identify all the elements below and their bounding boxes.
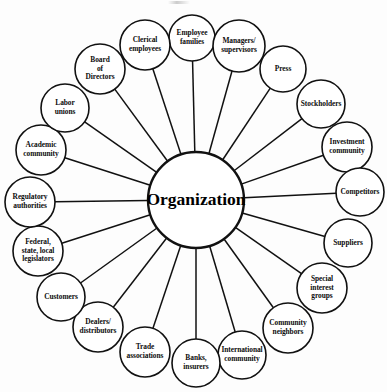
node-label-academic-community: community [23,149,59,158]
node-stockholders[interactable]: Stockholders [297,80,345,128]
node-special-interest-groups[interactable]: Specialinterestgroups [297,263,347,313]
node-label-employee-families: families [180,37,204,46]
spoke-line-clerical-employees [153,69,181,155]
node-labor-unions[interactable]: Laborunions [41,84,89,132]
node-trade-associations[interactable]: Tradeassociations [120,327,170,377]
node-managers-supervisors[interactable]: Managers/supervisors [213,20,265,72]
node-label-labor-unions: unions [55,107,76,116]
node-suppliers[interactable]: Suppliers [324,219,372,267]
spoke-line-suppliers [242,213,325,236]
spoke-line-federal-state-local-legislators [62,215,151,244]
node-label-dealers-distributors: distributors [80,326,117,335]
spoke-line-customers [80,228,157,283]
spoke-line-regulatory-authorities [55,201,148,202]
node-label-trade-associations: associations [127,351,164,360]
node-clerical-employees[interactable]: Clericalemployees [120,20,170,70]
spoke-line-competitors [244,193,336,197]
node-label-special-interest-groups: groups [311,291,333,300]
node-label-board-of-directors: Directors [86,72,115,81]
node-employee-families[interactable]: Employeefamilies [169,15,215,61]
diagram-canvas: EmployeefamiliesManagers/supervisorsPres… [0,0,387,392]
spoke-line-international-community [210,246,236,332]
node-label-community-neighbors: neighbors [273,327,304,336]
spoke-line-academic-community [65,158,151,186]
spoke-line-managers-supervisors [209,71,232,154]
node-board-of-directors[interactable]: BoardofDirectors [75,44,125,94]
spoke-line-labor-unions [85,122,157,173]
node-competitors[interactable]: Competitors [336,168,384,216]
node-label-stockholders: Stockholders [301,99,342,108]
spoke-line-investment-community [241,155,323,184]
node-label-banks-insurers: insurers [183,362,209,371]
node-banks-insurers[interactable]: Banks,insurers [172,339,220,387]
stakeholder-map-svg: EmployeefamiliesManagers/supervisorsPres… [0,0,387,392]
node-academic-community[interactable]: Academiccommunity [16,125,66,175]
node-federal-state-local-legislators[interactable]: Federal,state, locallegislators [13,226,63,276]
node-community-neighbors[interactable]: Communityneighbors [263,303,313,353]
spoke-line-dealers-distributors [113,238,166,307]
node-label-competitors: Competitors [341,187,380,196]
node-label-investment-community: community [329,146,365,155]
organization-hub-label: Organization [146,189,245,209]
node-label-customers: Customers [44,292,78,301]
node-label-clerical-employees: employees [129,44,161,53]
node-label-federal-state-local-legislators: legislators [22,254,54,263]
node-label-international-community: community [224,354,260,363]
node-label-press: Press [275,64,292,73]
node-label-regulatory-authorities: authorities [13,201,47,210]
spoke-line-special-interest-groups [235,227,301,273]
node-customers[interactable]: Customers [37,273,85,321]
hub-layer: Organization [146,152,245,248]
spoke-line-employee-families [193,61,195,152]
spoke-line-trade-associations [153,246,181,329]
spoke-line-board-of-directors [115,89,168,161]
node-investment-community[interactable]: Investmentcommunity [322,122,372,172]
node-international-community[interactable]: Internationalcommunity [218,331,266,379]
node-label-suppliers: Suppliers [333,238,363,247]
node-regulatory-authorities[interactable]: Regulatoryauthorities [5,177,55,227]
node-press[interactable]: Press [260,46,306,92]
node-label-managers-supervisors: supervisors [221,45,257,54]
